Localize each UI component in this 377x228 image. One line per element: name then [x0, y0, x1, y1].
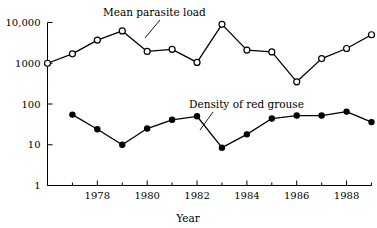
- series-line-1: [72, 112, 371, 148]
- data-point-marker: [344, 46, 350, 52]
- data-point-marker: [119, 28, 125, 34]
- x-tick-label: 1986: [284, 190, 309, 201]
- data-point-marker: [369, 32, 375, 38]
- y-axis-ticks: [48, 23, 53, 186]
- x-tick-label: 1982: [184, 190, 209, 201]
- series-annotation-label: Density of red grouse: [189, 98, 304, 110]
- chart-series: [45, 21, 375, 150]
- data-point-marker: [95, 127, 100, 132]
- data-point-marker: [169, 46, 175, 52]
- annotation-leader-line: [145, 20, 160, 38]
- data-point-marker: [170, 117, 175, 122]
- data-point-marker: [294, 79, 300, 85]
- data-point-marker: [294, 113, 299, 118]
- x-tick-label: 1988: [334, 190, 359, 201]
- y-tick-label: 1000: [15, 58, 40, 69]
- data-point-marker: [319, 113, 324, 118]
- x-tick-label: 1978: [85, 190, 110, 201]
- x-tick-label: 1980: [134, 190, 159, 201]
- data-point-marker: [219, 145, 224, 150]
- data-point-marker: [69, 51, 75, 57]
- data-point-marker: [344, 109, 349, 114]
- data-point-marker: [120, 142, 125, 147]
- data-point-marker: [194, 114, 199, 119]
- series-line-0: [48, 24, 372, 81]
- data-point-marker: [244, 132, 249, 137]
- data-point-marker: [269, 116, 274, 121]
- data-point-marker: [269, 49, 275, 55]
- data-point-marker: [244, 47, 250, 53]
- x-axis-ticks: [72, 181, 371, 186]
- y-axis-tick-labels: 10,0001000100101: [6, 17, 41, 191]
- data-point-marker: [319, 56, 325, 62]
- series-annotation-label: Mean parasite load: [103, 6, 206, 18]
- data-point-marker: [219, 21, 225, 27]
- data-point-marker: [194, 59, 200, 65]
- y-tick-label: 10,000: [6, 17, 41, 28]
- y-tick-label: 1: [34, 180, 40, 191]
- data-point-marker: [144, 48, 150, 54]
- y-tick-label: 100: [21, 99, 40, 110]
- data-point-marker: [145, 126, 150, 131]
- data-point-marker: [369, 119, 374, 124]
- chart-annotations: Mean parasite loadDensity of red grouse: [103, 6, 304, 130]
- chart-canvas: 10,0001000100101 19781980198219841986198…: [0, 0, 377, 228]
- data-point-marker: [70, 112, 75, 117]
- data-point-marker: [94, 37, 100, 43]
- chart-figure: 10,0001000100101 19781980198219841986198…: [0, 0, 377, 228]
- x-axis-title: Year: [175, 212, 200, 224]
- x-axis-tick-labels: 197819801982198419861988: [85, 190, 360, 201]
- data-point-marker: [45, 60, 51, 66]
- x-tick-label: 1984: [234, 190, 259, 201]
- y-tick-label: 10: [28, 139, 41, 150]
